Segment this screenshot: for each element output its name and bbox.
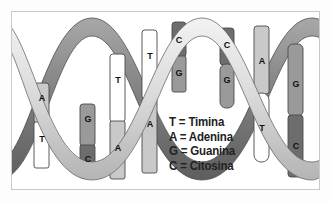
base-guanine (288, 44, 303, 116)
dna-diagram: A T G C T A T A C G C G A T G C T = Timi… (12, 12, 319, 189)
screenshot-root: A T G C T A T A C G C G A T G C T = Timi… (0, 0, 331, 202)
base-guanine (220, 64, 234, 108)
base-guanine (80, 104, 95, 146)
base-adenine (254, 26, 269, 94)
figure-frame: A T G C T A T A C G C G A T G C T = Timi… (11, 11, 320, 190)
dna-helix-svg (12, 12, 319, 189)
base-thymine (110, 54, 125, 122)
